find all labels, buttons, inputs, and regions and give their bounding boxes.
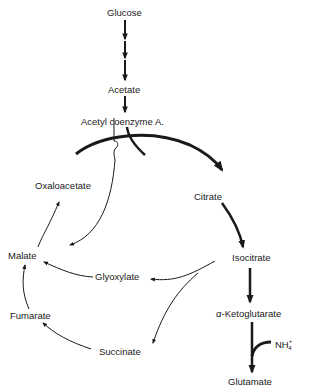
ammonium-charge: + — [289, 338, 293, 344]
node-citrate: Citrate — [194, 191, 222, 202]
node-glucose: Glucose — [107, 7, 142, 18]
node-glutamate: Glutamate — [228, 376, 272, 387]
node-alpha-ketoglutarate: α-Ketoglutarate — [216, 308, 281, 319]
acetylcoa-to-citrate-join — [127, 127, 145, 155]
succinate-to-fumarate-arrow — [43, 323, 91, 349]
node-acetate: Acetate — [108, 84, 140, 95]
ammonium-subscript: 4 — [288, 345, 291, 351]
node-ammonium: NH+4 — [275, 336, 292, 354]
node-acetyl-coa: Acetyl coenzyme A. — [81, 116, 164, 127]
node-malate: Malate — [8, 250, 37, 261]
isocitrate-to-glyoxylate-arrow — [151, 261, 215, 280]
pathway-arrows — [0, 0, 309, 392]
node-glyoxylate: Glyoxylate — [95, 271, 139, 282]
isocitrate-to-succinate-arrow — [153, 273, 198, 343]
oxaloacetate-to-citrate-arc — [76, 135, 222, 170]
ammonium-label: NH — [275, 339, 289, 350]
fumarate-to-malate-arrow — [23, 265, 29, 309]
citrate-to-isocitrate-arrow — [222, 203, 243, 247]
node-oxaloacetate: Oxaloacetate — [35, 180, 91, 191]
node-fumarate: Fumarate — [10, 310, 51, 321]
node-isocitrate: Isocitrate — [232, 252, 271, 263]
malate-to-oxaloacetate-arrow — [38, 202, 59, 247]
node-succinate: Succinate — [99, 346, 141, 357]
ammonium-input-curve — [252, 342, 271, 356]
glyoxylate-to-malate-arrow — [44, 262, 93, 277]
